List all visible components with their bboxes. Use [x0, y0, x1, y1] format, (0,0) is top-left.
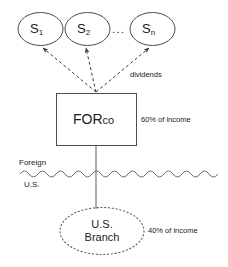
subsidiary-ellipse-s2 — [65, 13, 110, 46]
subsidiary-ellipse-sn — [130, 13, 175, 46]
subsidiary-ellipsis: ... — [112, 23, 126, 35]
dividend-arrow-s2 — [86, 48, 96, 92]
tax-structure-diagram: S1 S2 Sn ... dividends FORco 60% of inco… — [0, 0, 228, 267]
branch-income-label: 40% of income — [148, 226, 198, 235]
foreign-us-border-wave — [20, 171, 218, 177]
forco-income-label: 60% of income — [141, 115, 191, 124]
us-branch-ellipse — [60, 208, 144, 255]
dividend-arrow-s1 — [43, 48, 96, 92]
us-region-label: U.S. — [24, 180, 40, 189]
foreign-region-label: Foreign — [19, 158, 46, 167]
forco-box — [57, 94, 137, 146]
subsidiary-ellipse-s1 — [18, 13, 63, 46]
dividends-label: dividends — [130, 70, 162, 79]
